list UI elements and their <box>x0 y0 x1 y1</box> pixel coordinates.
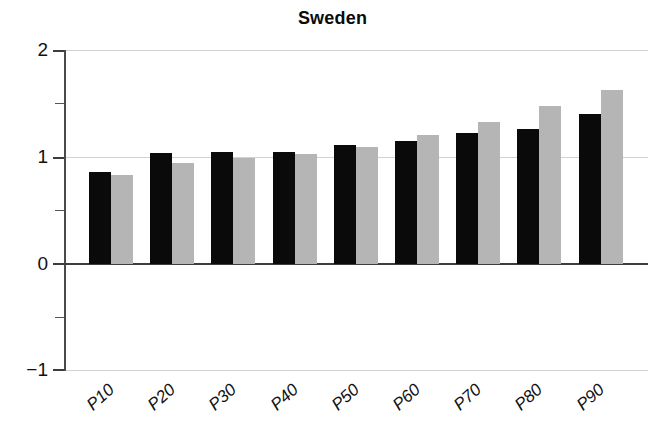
bar-p20-black <box>150 153 172 264</box>
y-tick-minus1 <box>53 369 64 371</box>
bar-p50-black <box>334 145 356 265</box>
bar-p10-black <box>89 172 111 264</box>
y-tick-label-1: 1 <box>4 147 48 166</box>
bar-p60-black <box>395 141 417 264</box>
bar-p80-black <box>517 129 539 265</box>
x-tick-label-p40: P40 <box>267 380 302 415</box>
x-tick-label-p80: P80 <box>511 380 546 415</box>
bar-p90-gray <box>601 90 623 264</box>
gridline-minus1 <box>64 370 648 371</box>
x-tick-label-p10: P10 <box>83 380 118 415</box>
bar-p40-black <box>273 152 295 264</box>
y-tick-label-2: 2 <box>4 40 48 59</box>
bar-p80-gray <box>539 106 561 264</box>
x-axis-labels: P10P20P30P40P50P60P70P80P90 <box>0 382 665 439</box>
x-tick-label-p60: P60 <box>389 380 424 415</box>
y-tick-label-minus1: −1 <box>4 360 48 379</box>
bar-p40-gray <box>295 154 317 264</box>
x-tick-label-p20: P20 <box>144 380 179 415</box>
y-tick-2 <box>53 50 64 52</box>
bar-p20-gray <box>172 163 194 264</box>
y-tick-label-0: 0 <box>4 254 48 273</box>
x-tick-label-p90: P90 <box>573 380 608 415</box>
bar-p10-gray <box>111 175 133 264</box>
y-tick-0 <box>53 263 64 265</box>
y-tick-minus0p5 <box>55 317 64 318</box>
bar-p70-gray <box>478 122 500 264</box>
bar-p30-black <box>211 152 233 264</box>
bar-p60-gray <box>417 135 439 264</box>
y-tick-0p5 <box>55 210 64 211</box>
chart-container: Sweden 2 1 0 −1 P10P20P30P40P50P60P70P80… <box>0 0 665 439</box>
bar-p50-gray <box>356 147 378 264</box>
x-tick-label-p30: P30 <box>205 380 240 415</box>
bars-layer <box>64 50 648 264</box>
y-tick-1p5 <box>55 103 64 104</box>
chart-title: Sweden <box>0 8 665 29</box>
y-tick-1 <box>53 157 64 159</box>
x-tick-label-p50: P50 <box>328 380 363 415</box>
x-tick-label-p70: P70 <box>450 380 485 415</box>
bar-p90-black <box>579 114 601 264</box>
bar-p70-black <box>456 133 478 264</box>
bar-p30-gray <box>233 158 255 264</box>
